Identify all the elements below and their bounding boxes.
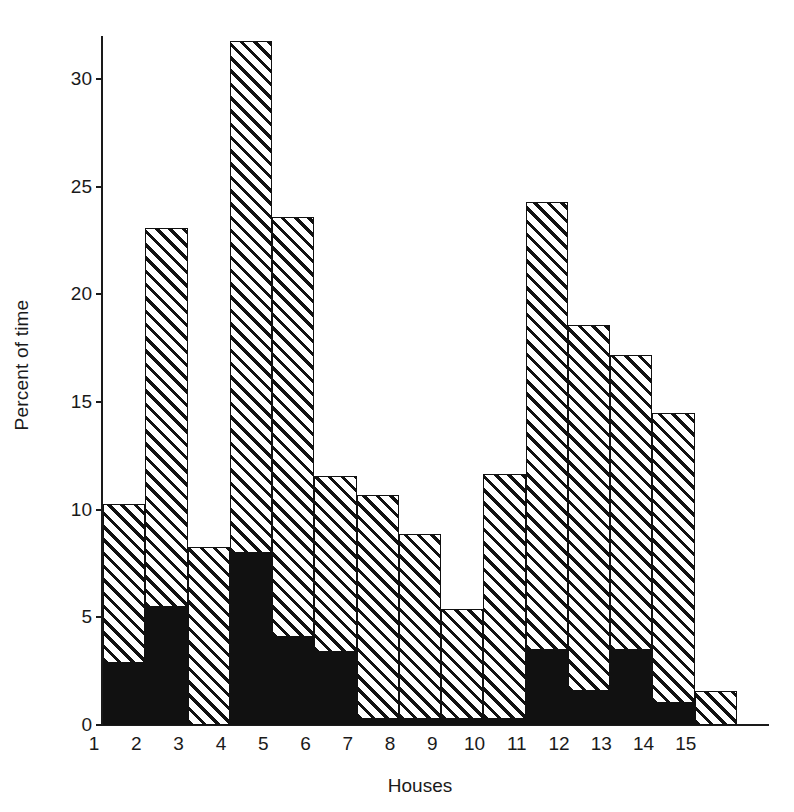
bar-chart: Percent of time 051015202530 12345678910…: [0, 0, 794, 812]
bar-segment-hatched: [188, 547, 230, 725]
bar: [526, 36, 568, 725]
y-axis-tick-mark: [96, 401, 102, 403]
bar: [272, 36, 314, 725]
bar-segment-hatched: [145, 228, 187, 606]
bar: [399, 36, 441, 725]
bar: [230, 36, 272, 725]
bar-segment-hatched: [610, 355, 652, 649]
bar-segment-hatched: [526, 202, 568, 649]
bar: [441, 36, 483, 725]
y-axis-title-text: Percent of time: [11, 300, 33, 431]
bar-segment-solid: [314, 652, 356, 725]
y-axis-tick-mark: [96, 724, 102, 726]
bar: [610, 36, 652, 725]
plot-area: [103, 0, 737, 726]
bar-segment-hatched: [103, 504, 145, 663]
bar-segment-hatched: [441, 609, 483, 718]
y-axis-tick-mark: [96, 293, 102, 295]
y-axis-tick-label: 15: [36, 391, 92, 413]
x-axis-tick-label: 15: [656, 733, 716, 755]
y-axis-tick-label: 25: [36, 176, 92, 198]
bar-segment-hatched: [314, 476, 356, 652]
bar-segment-solid: [526, 650, 568, 725]
bar-segment-solid: [103, 663, 145, 725]
y-axis-tick-label: 10: [36, 499, 92, 521]
bar-segment-solid: [272, 637, 314, 725]
bar-segment-hatched: [399, 534, 441, 719]
bar-segment-hatched: [230, 41, 272, 553]
bar: [483, 36, 525, 725]
bar: [145, 36, 187, 725]
bar: [357, 36, 399, 725]
y-axis-tick-label: 5: [36, 606, 92, 628]
bar-segment-hatched: [568, 325, 610, 690]
bar-segment-solid: [145, 607, 187, 725]
y-axis-tick-label: 30: [36, 68, 92, 90]
y-axis-tick-mark: [96, 616, 102, 618]
bar: [188, 36, 230, 725]
bar-segment-solid: [441, 719, 483, 725]
y-axis-tick-mark: [96, 78, 102, 80]
bar-segment-hatched: [272, 217, 314, 636]
bar: [652, 36, 694, 725]
bar: [103, 36, 145, 725]
bar: [314, 36, 356, 725]
bar-segment-solid: [483, 719, 525, 725]
bar-segment-solid: [610, 650, 652, 725]
bar-segment-solid: [652, 703, 694, 725]
bar-segment-hatched: [652, 413, 694, 703]
bar-segment-solid: [399, 719, 441, 725]
y-axis-tick-label: 20: [36, 283, 92, 305]
bar: [568, 36, 610, 725]
bar: [695, 36, 737, 725]
y-axis-tick-mark: [96, 186, 102, 188]
bar-segment-solid: [357, 719, 399, 725]
y-axis-tick-mark: [96, 509, 102, 511]
bar-segment-solid: [230, 553, 272, 725]
x-axis-title: Houses: [103, 775, 737, 797]
bar-segment-hatched: [357, 495, 399, 718]
bar-segment-hatched: [695, 691, 737, 725]
bar-segment-hatched: [483, 474, 525, 719]
bar-segment-solid: [568, 691, 610, 725]
